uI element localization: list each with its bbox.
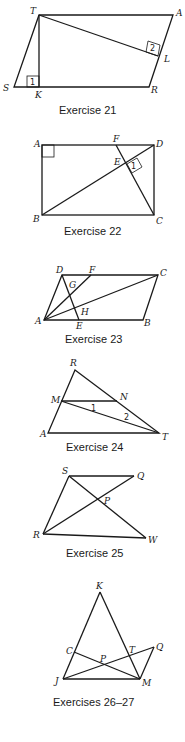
segment-rw — [43, 534, 146, 538]
point-r: R — [69, 358, 77, 368]
point-r: R — [32, 530, 40, 540]
angle-label-1: 1 — [131, 162, 136, 171]
point-q: Q — [156, 642, 164, 652]
point-w: W — [148, 535, 158, 545]
caption-exercise-21: Exercise 21 — [59, 104, 116, 116]
point-a: A — [33, 139, 41, 149]
point-f: F — [88, 265, 96, 275]
point-m: M — [50, 395, 61, 405]
figure-exercises-26-27: K C P T Q J M Exercises 26–27 — [53, 581, 164, 708]
figure-exercise-22: 1 A F D E B C Exercise 22 — [32, 134, 163, 237]
point-d: D — [55, 265, 63, 275]
point-c: C — [160, 268, 167, 278]
figure-exercise-23: D F C G H A E B Exercise 23 — [34, 265, 167, 345]
point-m: M — [141, 678, 152, 688]
diagonal-ac — [44, 275, 158, 320]
point-e: E — [75, 321, 83, 331]
caption-exercise-24: Exercise 24 — [66, 441, 123, 453]
point-p: P — [99, 654, 107, 664]
segment-tl — [39, 15, 158, 56]
diagonal-bd — [42, 145, 154, 215]
point-d: D — [155, 139, 163, 149]
point-k: K — [95, 581, 104, 591]
point-a: A — [39, 429, 47, 439]
point-q: Q — [137, 471, 145, 481]
figure-exercise-25: S Q P R W Exercise 25 — [32, 466, 158, 559]
right-angle-a — [42, 145, 54, 157]
exercise-diagrams: 1 2 T A S K R L Exercise 21 1 A F D E B … — [0, 0, 185, 742]
point-a: A — [175, 8, 183, 18]
point-p: P — [103, 496, 111, 506]
caption-exercise-23: Exercise 23 — [65, 333, 122, 345]
segment-jq — [63, 647, 154, 679]
figure-exercise-21: 1 2 T A S K R L Exercise 21 — [3, 6, 183, 116]
point-j: J — [53, 676, 60, 686]
segment-km — [100, 592, 140, 679]
caption-exercises-26-27: Exercises 26–27 — [53, 696, 134, 708]
angle-label-2: 2 — [124, 413, 129, 422]
point-n: N — [119, 392, 129, 402]
point-f: F — [112, 134, 120, 144]
figure-exercise-24: 1 2 R M N A T Exercise 24 — [39, 358, 169, 453]
angle-label-1: 1 — [30, 78, 35, 87]
point-a: A — [34, 316, 42, 326]
segment-fc — [116, 145, 154, 215]
point-s: S — [3, 83, 9, 93]
caption-exercise-25: Exercise 25 — [66, 547, 123, 559]
angle-label-2: 2 — [150, 44, 155, 53]
angle-label-1: 1 — [91, 404, 96, 413]
segment-sw — [69, 476, 146, 538]
segment-kj — [63, 592, 100, 679]
point-s: S — [62, 466, 68, 476]
point-b: B — [32, 214, 40, 224]
point-t: T — [30, 6, 37, 16]
point-t: T — [129, 645, 136, 655]
point-g: G — [69, 280, 76, 290]
point-b: B — [143, 318, 151, 328]
point-r: R — [150, 85, 158, 95]
point-k: K — [34, 90, 43, 100]
point-h: H — [80, 307, 89, 317]
point-c: C — [156, 216, 163, 226]
caption-exercise-22: Exercise 22 — [64, 225, 121, 237]
point-l: L — [163, 54, 170, 64]
point-c: C — [66, 646, 73, 656]
point-t: T — [162, 432, 169, 442]
segment-mt — [61, 401, 159, 433]
point-e: E — [113, 157, 121, 167]
